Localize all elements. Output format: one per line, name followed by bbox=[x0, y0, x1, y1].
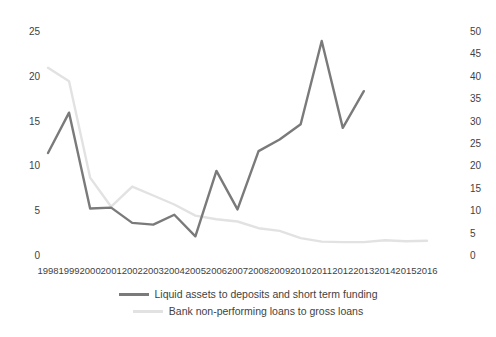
line-chart: 0510152025 05101520253035404550 19981999… bbox=[0, 0, 496, 337]
plot-area bbox=[0, 0, 496, 337]
legend-label: Liquid assets to deposits and short term… bbox=[155, 288, 378, 300]
legend-item[interactable]: Liquid assets to deposits and short term… bbox=[119, 288, 378, 300]
legend-label: Bank non-performing loans to gross loans bbox=[169, 305, 363, 317]
chart-legend: Liquid assets to deposits and short term… bbox=[0, 288, 496, 317]
legend-swatch-icon bbox=[133, 310, 163, 313]
series-line bbox=[48, 41, 364, 236]
legend-swatch-icon bbox=[119, 293, 149, 296]
legend-item[interactable]: Bank non-performing loans to gross loans bbox=[133, 305, 363, 317]
series-line bbox=[48, 68, 427, 242]
